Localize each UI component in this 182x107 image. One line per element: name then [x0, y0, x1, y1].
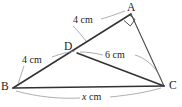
- length-label-dc: 6 cm: [105, 50, 125, 60]
- vertex-label-b: B: [1, 81, 9, 93]
- leader-length-da-tail: [73, 26, 86, 41]
- leader-length-bc-left: [16, 91, 80, 98]
- length-label-bc-unit: cm: [86, 91, 101, 102]
- length-label-bd: 4 cm: [22, 55, 42, 65]
- vertex-label-a: A: [127, 2, 135, 14]
- vertex-label-d: D: [64, 41, 72, 53]
- leader-length-dc-right: [135, 55, 161, 78]
- leader-length-dc-left: [80, 52, 103, 55]
- leader-length-da: [101, 11, 125, 19]
- segment-bc: [13, 86, 164, 88]
- vertex-label-c: C: [169, 80, 177, 92]
- length-label-da: 4 cm: [73, 15, 93, 25]
- geometry-figure: A B C D 4 cm 4 cm 6 cm x cm: [0, 0, 182, 107]
- length-label-bc: x cm: [82, 92, 101, 102]
- leader-length-bc-right: [110, 88, 161, 97]
